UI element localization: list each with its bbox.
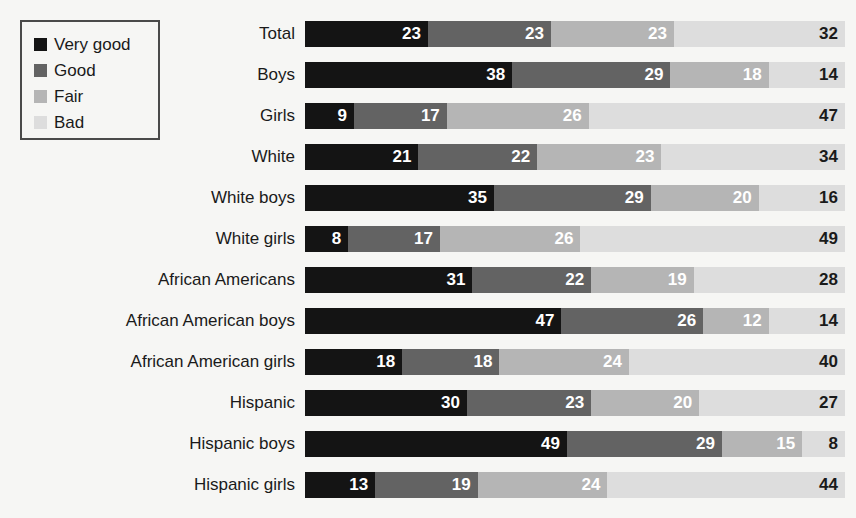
chart-row-label: White girls bbox=[15, 226, 305, 252]
bar-segment: 24 bbox=[478, 472, 608, 498]
chart-row: Boys38291814 bbox=[0, 62, 856, 88]
chart-row-label: White boys bbox=[15, 185, 305, 211]
bar-segment: 18 bbox=[670, 62, 768, 88]
chart-row-label: Hispanic bbox=[15, 390, 305, 416]
bar-segment-value: 47 bbox=[819, 103, 838, 129]
bar-segment-value: 29 bbox=[625, 185, 644, 211]
bar-segment: 47 bbox=[589, 103, 845, 129]
bar-segment-value: 15 bbox=[776, 431, 795, 457]
bar-segment-value: 9 bbox=[338, 103, 347, 129]
bar-segment-value: 23 bbox=[402, 21, 421, 47]
bar-segment-value: 28 bbox=[819, 267, 838, 293]
chart-row: African Americans31221928 bbox=[0, 267, 856, 293]
bar-segment: 17 bbox=[354, 103, 447, 129]
chart-row: Total23232332 bbox=[0, 21, 856, 47]
bar-segment-value: 20 bbox=[733, 185, 752, 211]
stacked-bar: 47261214 bbox=[305, 308, 845, 334]
bar-segment-value: 17 bbox=[421, 103, 440, 129]
bar-segment: 23 bbox=[428, 21, 551, 47]
bar-segment-value: 19 bbox=[668, 267, 687, 293]
bar-segment-value: 18 bbox=[473, 349, 492, 375]
bar-segment-value: 13 bbox=[349, 472, 368, 498]
stacked-bar: 38291814 bbox=[305, 62, 845, 88]
bar-segment-value: 26 bbox=[554, 226, 573, 252]
bar-segment: 38 bbox=[305, 62, 512, 88]
bar-segment-value: 31 bbox=[446, 267, 465, 293]
bar-segment-value: 23 bbox=[648, 21, 667, 47]
bar-segment: 9 bbox=[305, 103, 354, 129]
chart-row: African American boys47261214 bbox=[0, 308, 856, 334]
bar-segment: 12 bbox=[703, 308, 768, 334]
bar-segment-value: 40 bbox=[819, 349, 838, 375]
bar-segment-value: 26 bbox=[563, 103, 582, 129]
bar-segment-value: 24 bbox=[603, 349, 622, 375]
bar-segment-value: 8 bbox=[332, 226, 341, 252]
chart-row-label: Total bbox=[15, 21, 305, 47]
chart-row-label: Boys bbox=[15, 62, 305, 88]
bar-segment-value: 49 bbox=[541, 431, 560, 457]
chart-row: White girls8172649 bbox=[0, 226, 856, 252]
bar-segment: 14 bbox=[769, 62, 845, 88]
bar-segment: 20 bbox=[651, 185, 759, 211]
chart-row: Hispanic30232027 bbox=[0, 390, 856, 416]
bar-segment: 24 bbox=[499, 349, 629, 375]
bar-segment: 23 bbox=[305, 21, 428, 47]
bar-segment: 26 bbox=[447, 103, 589, 129]
bar-segment-value: 27 bbox=[819, 390, 838, 416]
bar-segment-value: 12 bbox=[743, 308, 762, 334]
chart-row-label: African Americans bbox=[15, 267, 305, 293]
chart-row-label: African American boys bbox=[15, 308, 305, 334]
chart-row: White21222334 bbox=[0, 144, 856, 170]
stacked-bar: 31221928 bbox=[305, 267, 845, 293]
bar-segment: 23 bbox=[551, 21, 674, 47]
chart-row-label: White bbox=[15, 144, 305, 170]
bar-segment-value: 22 bbox=[511, 144, 530, 170]
stacked-bar: 4929158 bbox=[305, 431, 845, 457]
chart-row: White boys35292016 bbox=[0, 185, 856, 211]
bar-segment: 18 bbox=[305, 349, 402, 375]
bar-segment-value: 30 bbox=[441, 390, 460, 416]
stacked-bar: 30232027 bbox=[305, 390, 845, 416]
bar-segment: 14 bbox=[769, 308, 845, 334]
bar-segment-value: 32 bbox=[819, 21, 838, 47]
bar-segment: 40 bbox=[629, 349, 845, 375]
stacked-bar: 35292016 bbox=[305, 185, 845, 211]
bar-segment: 22 bbox=[472, 267, 591, 293]
chart-row: African American girls18182440 bbox=[0, 349, 856, 375]
bar-segment-value: 24 bbox=[581, 472, 600, 498]
stacked-bar-chart: Very goodGoodFairBad Total23232332Boys38… bbox=[0, 0, 856, 518]
bar-segment: 23 bbox=[467, 390, 591, 416]
bar-segment-value: 49 bbox=[819, 226, 838, 252]
bar-segment: 29 bbox=[494, 185, 651, 211]
bar-segment: 28 bbox=[694, 267, 845, 293]
bar-segment: 19 bbox=[375, 472, 478, 498]
chart-row: Hispanic girls13192444 bbox=[0, 472, 856, 498]
bar-segment-value: 23 bbox=[525, 21, 544, 47]
bar-segment-value: 18 bbox=[376, 349, 395, 375]
bar-segment-value: 47 bbox=[535, 308, 554, 334]
bar-segment: 8 bbox=[305, 226, 348, 252]
chart-row-label: Girls bbox=[15, 103, 305, 129]
bar-segment-value: 19 bbox=[452, 472, 471, 498]
bar-segment-value: 14 bbox=[819, 308, 838, 334]
bar-segment: 27 bbox=[699, 390, 845, 416]
bar-segment-value: 29 bbox=[645, 62, 664, 88]
chart-row-label: African American girls bbox=[15, 349, 305, 375]
bar-segment-value: 38 bbox=[486, 62, 505, 88]
bar-segment: 30 bbox=[305, 390, 467, 416]
bar-segment: 49 bbox=[305, 431, 567, 457]
bar-segment: 26 bbox=[561, 308, 703, 334]
bar-segment: 8 bbox=[802, 431, 845, 457]
bar-segment: 19 bbox=[591, 267, 694, 293]
bar-segment-value: 21 bbox=[392, 144, 411, 170]
bar-segment: 17 bbox=[348, 226, 440, 252]
chart-row-label: Hispanic girls bbox=[15, 472, 305, 498]
bar-segment-value: 34 bbox=[819, 144, 838, 170]
bar-segment-value: 8 bbox=[829, 431, 838, 457]
bar-segment-value: 14 bbox=[819, 62, 838, 88]
bar-segment-value: 20 bbox=[673, 390, 692, 416]
bar-segment-value: 23 bbox=[565, 390, 584, 416]
bar-segment: 29 bbox=[512, 62, 670, 88]
stacked-bar: 18182440 bbox=[305, 349, 845, 375]
bar-segment: 22 bbox=[418, 144, 537, 170]
